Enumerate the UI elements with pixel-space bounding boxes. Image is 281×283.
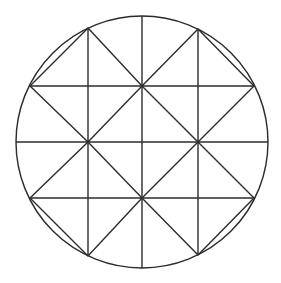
grid-lines xyxy=(16,16,268,268)
diamond-bottom-left xyxy=(30,142,142,256)
circle-grid-diagram xyxy=(0,0,281,283)
diamond-top-left xyxy=(30,28,142,142)
